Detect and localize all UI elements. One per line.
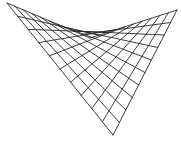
- saddle-surface-wireframe: [0, 0, 181, 144]
- wireframe-grid: [7, 3, 177, 135]
- grid-line-v: [82, 23, 171, 35]
- grid-line-u: [92, 16, 160, 109]
- grid-line-v: [57, 24, 152, 60]
